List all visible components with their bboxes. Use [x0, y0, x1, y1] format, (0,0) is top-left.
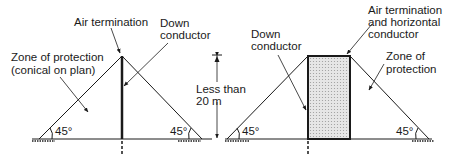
label-angle-left-1: 45°: [55, 125, 72, 137]
label-height-l2: 20 m: [196, 95, 222, 108]
label-air-termination: Air termination: [74, 16, 148, 29]
right-angle-arc-r: [416, 128, 418, 139]
left-cone-right-edge: [122, 56, 202, 139]
left-angle-arc-r: [189, 128, 191, 139]
label-zone-l1: Zone of protection: [11, 51, 104, 64]
right-angle-arc-l: [237, 128, 239, 139]
label-right-zone-l1: Zone of: [386, 50, 425, 63]
label-angle-left-2: 45°: [242, 125, 259, 137]
arrow-right-zone: [369, 64, 384, 90]
label-down-conductor-l2: conductor: [160, 29, 211, 42]
label-right-zone-l2: protection: [386, 63, 437, 76]
building: [308, 56, 350, 139]
label-air-termination-h-l3: conductor: [368, 28, 419, 41]
label-zone-l2: (conical on plan): [11, 64, 95, 77]
label-angle-right-2: 45°: [396, 125, 413, 137]
right-zone-left-edge: [227, 56, 308, 139]
label-angle-right-1: 45°: [170, 125, 187, 137]
left-angle-arc-l: [50, 128, 52, 139]
arrow-air-termination: [111, 28, 120, 53]
label-right-down-conductor-l2: conductor: [251, 40, 302, 53]
